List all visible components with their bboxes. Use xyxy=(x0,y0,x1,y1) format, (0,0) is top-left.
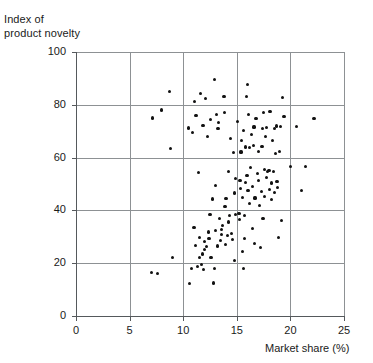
x-gridline xyxy=(183,52,184,316)
data-point xyxy=(247,113,250,116)
data-point xyxy=(197,171,200,174)
data-point xyxy=(221,224,224,227)
y-tick-mark xyxy=(72,105,76,106)
x-tick-mark xyxy=(76,317,77,321)
data-point xyxy=(232,151,235,154)
x-tick-label: 20 xyxy=(277,324,303,336)
data-point xyxy=(219,239,222,242)
data-point xyxy=(265,176,268,179)
data-point xyxy=(262,111,265,114)
data-point xyxy=(211,197,214,200)
data-point xyxy=(248,146,251,149)
data-point xyxy=(212,281,215,284)
data-point xyxy=(227,220,230,223)
x-gridline xyxy=(237,52,238,316)
data-point xyxy=(243,237,246,240)
data-point xyxy=(223,205,226,208)
data-point xyxy=(268,110,271,113)
y-gridline xyxy=(76,210,344,211)
data-point xyxy=(258,204,261,207)
data-point xyxy=(203,248,206,251)
data-point xyxy=(263,195,266,198)
data-point xyxy=(193,100,196,103)
data-point xyxy=(268,188,271,191)
data-point xyxy=(264,135,267,138)
data-point xyxy=(254,117,257,120)
data-point xyxy=(227,170,230,173)
data-point xyxy=(156,272,159,275)
data-point xyxy=(190,267,193,270)
data-point xyxy=(203,240,206,243)
x-tick-label: 0 xyxy=(63,324,89,336)
y-tick-mark xyxy=(72,158,76,159)
x-tick-label: 25 xyxy=(331,324,357,336)
data-point xyxy=(245,95,248,98)
data-point xyxy=(215,113,218,116)
data-point xyxy=(196,265,199,268)
data-point xyxy=(194,114,197,117)
data-point xyxy=(222,95,225,98)
data-point xyxy=(238,179,241,182)
data-point xyxy=(260,190,263,193)
data-point xyxy=(281,96,284,99)
data-point xyxy=(192,226,195,229)
data-point xyxy=(199,92,202,95)
data-point xyxy=(246,83,249,86)
y-tick-label: 20 xyxy=(34,256,66,268)
y-tick-label: 0 xyxy=(34,309,66,321)
y-gridline xyxy=(76,105,344,106)
y-gridline xyxy=(76,158,344,159)
data-point xyxy=(250,133,253,136)
data-point xyxy=(253,242,256,245)
data-point xyxy=(273,191,276,194)
x-gridline xyxy=(290,52,291,316)
data-point xyxy=(207,230,210,233)
data-point xyxy=(242,267,245,270)
data-point xyxy=(224,243,227,246)
data-point xyxy=(271,139,274,142)
data-point xyxy=(206,135,209,138)
data-point xyxy=(251,185,254,188)
data-point xyxy=(242,129,245,132)
data-point xyxy=(205,245,208,248)
data-point xyxy=(216,127,219,130)
data-point xyxy=(216,244,219,247)
data-point xyxy=(244,181,247,184)
data-point xyxy=(213,267,216,270)
data-point xyxy=(207,237,210,240)
data-point xyxy=(224,197,227,200)
data-point xyxy=(261,217,264,220)
data-point xyxy=(312,117,315,120)
data-point xyxy=(239,150,242,153)
data-point xyxy=(252,144,255,147)
x-tick-mark xyxy=(130,317,131,321)
data-point xyxy=(239,187,242,190)
x-axis-line xyxy=(76,316,345,317)
data-point xyxy=(295,125,298,128)
data-point xyxy=(198,256,201,259)
data-point xyxy=(275,124,278,127)
data-point xyxy=(228,214,231,217)
data-point xyxy=(220,233,223,236)
data-point xyxy=(241,250,244,253)
data-point xyxy=(275,180,278,183)
y-tick-label: 60 xyxy=(34,151,66,163)
x-tick-label: 10 xyxy=(170,324,196,336)
data-point xyxy=(253,196,256,199)
data-point xyxy=(240,139,243,142)
data-point xyxy=(223,111,226,114)
data-point xyxy=(201,252,204,255)
data-point xyxy=(238,218,241,221)
data-point xyxy=(233,191,236,194)
data-point xyxy=(169,147,172,150)
data-point xyxy=(171,256,174,259)
y-axis-label: Index of product novelty xyxy=(4,12,80,40)
data-point xyxy=(251,227,254,230)
data-point xyxy=(214,184,217,187)
data-point xyxy=(256,172,259,175)
data-point xyxy=(274,152,277,155)
data-point xyxy=(208,213,211,216)
data-point xyxy=(272,170,275,173)
y-tick-label: 100 xyxy=(34,45,66,57)
data-point xyxy=(246,189,249,192)
